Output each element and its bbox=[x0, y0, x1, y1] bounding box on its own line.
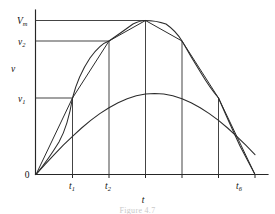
y-axis-labels-group: Vm v2 v1 bbox=[17, 16, 28, 105]
figure-caption: Figure 4.7 bbox=[0, 206, 275, 214]
figure-container: Vm v2 v1 0 v t1 t2 t6 t Figure 4.7 bbox=[0, 0, 275, 214]
x-label-t2: t2 bbox=[105, 181, 112, 192]
axes-group bbox=[36, 10, 269, 175]
chord-2-3 bbox=[109, 21, 146, 42]
y-axis-label: v bbox=[11, 64, 16, 74]
x-label-t6: t6 bbox=[236, 181, 243, 192]
x-axis-label: t bbox=[142, 195, 145, 205]
origin-label: 0 bbox=[25, 170, 30, 180]
guide-lines-group bbox=[36, 21, 146, 99]
chord-1-2 bbox=[73, 41, 110, 98]
ordinate-lines-group bbox=[73, 21, 219, 175]
y-label-v2: v2 bbox=[18, 37, 26, 48]
x-label-t1: t1 bbox=[69, 181, 75, 192]
chord-5-6 bbox=[219, 98, 256, 175]
sine-wave-chord-plot: Vm v2 v1 0 v t1 t2 t6 t bbox=[0, 0, 275, 214]
y-label-v1: v1 bbox=[18, 94, 25, 105]
x-axis-labels-group: t1 t2 t6 bbox=[69, 181, 243, 192]
y-label-vm: Vm bbox=[17, 16, 28, 27]
chord-0-1 bbox=[36, 98, 73, 175]
chord-4-5 bbox=[182, 41, 219, 98]
